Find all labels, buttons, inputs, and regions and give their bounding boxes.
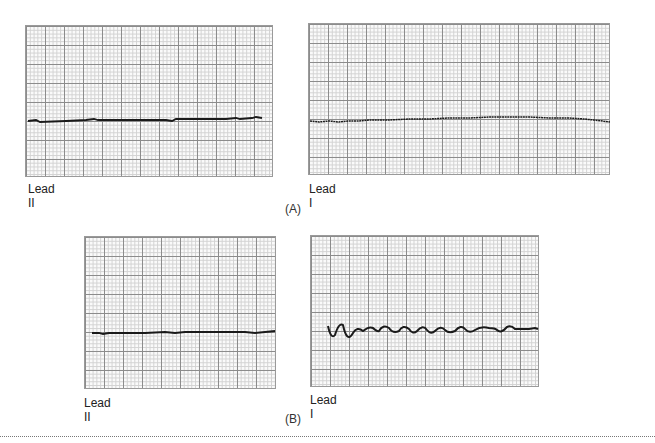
part-b-label: (B) — [285, 412, 301, 426]
lead-label: Lead I — [309, 182, 336, 210]
lead-label: Lead I — [310, 393, 337, 421]
ecg-trace — [309, 24, 611, 176]
ecg-grid — [84, 236, 276, 389]
dotted-divider — [0, 436, 655, 437]
ecg-grid — [25, 25, 273, 177]
lead-label: Lead II — [28, 182, 55, 210]
ecg-trace — [311, 236, 540, 388]
lead-label: Lead II — [84, 396, 111, 424]
ecg-grid — [310, 235, 539, 387]
ecg-grid — [308, 23, 610, 175]
part-a-label: (A) — [285, 202, 301, 216]
ecg-trace — [26, 26, 274, 178]
ecg-trace — [85, 237, 277, 390]
